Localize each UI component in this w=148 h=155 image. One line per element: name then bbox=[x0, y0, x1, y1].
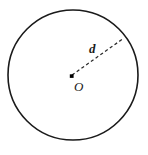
radius-length-label: d bbox=[89, 41, 96, 56]
geometry-figure: d O bbox=[0, 0, 148, 155]
center-point-label: O bbox=[74, 79, 84, 94]
circle-diagram-canvas: d O bbox=[0, 0, 148, 155]
center-point-marker bbox=[70, 74, 74, 78]
